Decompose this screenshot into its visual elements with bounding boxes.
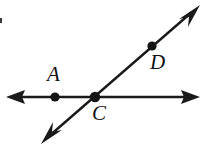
point-label-c: C — [92, 103, 106, 124]
geometry-figure: A C D — [0, 0, 206, 152]
scan-speck-artifact — [0, 18, 2, 23]
arrowhead-upper-right-icon — [179, 5, 200, 27]
arrowhead-lower-left-icon — [41, 122, 62, 144]
point-label-d: D — [150, 52, 165, 73]
point-marker-a — [50, 92, 59, 101]
figure-canvas — [0, 0, 206, 152]
diagonal-line — [48, 12, 192, 137]
point-label-a: A — [47, 64, 60, 85]
